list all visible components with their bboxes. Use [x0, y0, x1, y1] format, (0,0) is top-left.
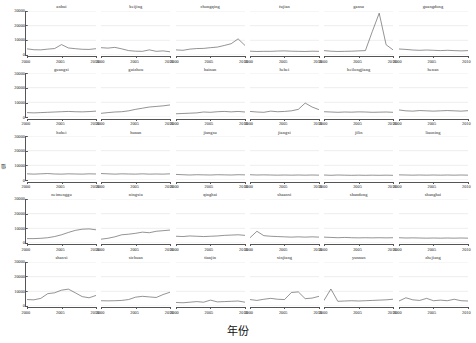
y-axis-tick-label: 30000: [14, 259, 25, 264]
y-axis-tick-label: 30000: [14, 196, 25, 201]
panel-title: hunan: [101, 130, 170, 136]
chart-panel-sichuan[interactable]: sichuan200020052010: [101, 255, 170, 318]
panel-plot-area: [324, 136, 393, 180]
panel-title: beijing: [101, 4, 170, 10]
panel-plot-area: [399, 136, 468, 180]
x-axis-tick-label: 2005: [279, 184, 288, 189]
chart-panel-jilin[interactable]: jilin200020052010: [324, 130, 393, 193]
chart-panel-hainan[interactable]: hainan200020052010: [176, 67, 245, 130]
x-axis-tick-label: 2000: [319, 247, 328, 252]
chart-panel-shanxi[interactable]: shanxi200020052010: [27, 255, 96, 318]
x-axis-tick-label: 2000: [393, 310, 402, 315]
y-axis-tick-label: 20000: [14, 274, 25, 279]
chart-panel-yunnan[interactable]: yunnan200020052010: [324, 255, 393, 318]
x-axis-tick-label: 2000: [170, 310, 179, 315]
chart-panel-liaoning[interactable]: liaoning200020052010: [399, 130, 468, 193]
panel-plot-area: [250, 11, 319, 55]
y-axis-tick-label: 10000: [14, 226, 25, 231]
y-axis-tick-column: 0100002000030000010000200003000001000020…: [0, 0, 27, 314]
chart-panel-zhejiang[interactable]: zhejiang200020052010: [399, 255, 468, 318]
chart-panel-fujian[interactable]: fujian200020052010: [250, 4, 319, 67]
panel-title: hebei: [250, 67, 319, 73]
x-axis-tick-label: 2005: [353, 247, 362, 252]
x-axis-tick-label: 2005: [279, 310, 288, 315]
x-axis-tick-label: 2005: [56, 184, 65, 189]
chart-panel-chongqing[interactable]: chongqing200020052010: [176, 4, 245, 67]
panel-plot-area: [27, 262, 96, 306]
chart-panel-guangxi[interactable]: guangxi200020052010: [27, 67, 96, 130]
chart-panel-shanghai[interactable]: shanghai200020052010: [399, 192, 468, 255]
panel-title: tianjin: [176, 255, 245, 261]
chart-panel-gansu[interactable]: gansu200020052010: [324, 4, 393, 67]
chart-panel-qinghai[interactable]: qinghai200020052010: [176, 192, 245, 255]
x-axis-tick-label: 2005: [56, 247, 65, 252]
panel-title: fujian: [250, 4, 319, 10]
panel-title: chongqing: [176, 4, 245, 10]
y-axis-tick-label: 20000: [14, 211, 25, 216]
x-axis: 200020052010: [27, 244, 96, 254]
x-axis: 200020052010: [399, 56, 468, 66]
x-axis-tick-label: 2000: [22, 310, 31, 315]
panel-plot-area: [101, 11, 170, 55]
chart-panel-henan[interactable]: henan200020052010: [399, 67, 468, 130]
chart-panel-guangdong[interactable]: guangdong200020052010: [399, 4, 468, 67]
panel-title: hainan: [176, 67, 245, 73]
chart-panel-heilongjiang[interactable]: heilongjiang200020052010: [324, 67, 393, 130]
chart-panel-jiangxi[interactable]: jiangxi200020052010: [250, 130, 319, 193]
panel-plot-area: [101, 262, 170, 306]
chart-panel-hebei[interactable]: hebei200020052010: [250, 67, 319, 130]
x-axis-tick-label: 2000: [393, 247, 402, 252]
panel-title: guizhou: [101, 67, 170, 73]
chart-panel-shandong[interactable]: shandong200020052010: [324, 192, 393, 255]
panel-plot-area: [324, 73, 393, 117]
panel-plot-area: [101, 199, 170, 243]
x-axis-tick-label: 2005: [428, 310, 437, 315]
x-axis-tick-label: 2005: [279, 121, 288, 126]
x-axis: 200020052010: [176, 244, 245, 254]
panel-plot-area: [176, 262, 245, 306]
chart-panel-xinjiang[interactable]: xinjiang200020052010: [250, 255, 319, 318]
x-axis: 200020052010: [250, 119, 319, 129]
y-axis-tick-label: 30000: [14, 134, 25, 139]
panel-plot-area: [101, 136, 170, 180]
x-axis-tick-label: 2010: [462, 121, 471, 126]
y-axis-tick-label: 20000: [14, 85, 25, 90]
chart-panel-jiangsu[interactable]: jiangsu200020052010: [176, 130, 245, 193]
panel-plot-area: [27, 199, 96, 243]
chart-panel-hubei[interactable]: hubei200020052010: [27, 130, 96, 193]
panel-plot-area: [250, 199, 319, 243]
chart-panel-anhui[interactable]: anhui200020052010: [27, 4, 96, 67]
x-axis-tick-label: 2005: [56, 121, 65, 126]
chart-panel-guizhou[interactable]: guizhou200020052010: [101, 67, 170, 130]
chart-panel-hunan[interactable]: hunan200020052010: [101, 130, 170, 193]
x-axis: 200020052010: [250, 244, 319, 254]
x-axis: 200020052010: [176, 56, 245, 66]
y-axis-tick-label: 10000: [14, 37, 25, 42]
chart-panel-tianjin[interactable]: tianjin200020052010: [176, 255, 245, 318]
x-axis-tick-label: 2000: [319, 121, 328, 126]
panel-plot-area: [324, 11, 393, 55]
x-axis-tick-label: 2000: [170, 184, 179, 189]
x-axis-tick-label: 2000: [393, 59, 402, 64]
panel-title: jiangxi: [250, 130, 319, 136]
y-axis-tick-label: 10000: [14, 100, 25, 105]
x-axis: 200020052010: [101, 244, 170, 254]
chart-panel-beijing[interactable]: beijing200020052010: [101, 4, 170, 67]
x-axis-tick-label: 2005: [353, 310, 362, 315]
x-axis-tick-label: 2005: [205, 247, 214, 252]
x-axis-tick-label: 2000: [319, 310, 328, 315]
panel-title: gansu: [324, 4, 393, 10]
y-axis-tick-label: 10000: [14, 289, 25, 294]
x-axis-tick-label: 2000: [393, 121, 402, 126]
x-axis-tick-label: 2000: [170, 121, 179, 126]
x-axis-tick-label: 2005: [428, 59, 437, 64]
x-axis-tick-label: 2005: [56, 59, 65, 64]
chart-panel-shaanxi[interactable]: shaanxi200020052010: [250, 192, 319, 255]
chart-panel-neimenggu[interactable]: neimenggu200020052010: [27, 192, 96, 255]
panel-title: jilin: [324, 130, 393, 136]
panel-plot-area: [27, 136, 96, 180]
x-axis-tick-label: 2005: [130, 247, 139, 252]
panel-title: jiangsu: [176, 130, 245, 136]
chart-panel-ningxia[interactable]: ningxia200020052010: [101, 192, 170, 255]
x-axis: 200020052010: [101, 56, 170, 66]
